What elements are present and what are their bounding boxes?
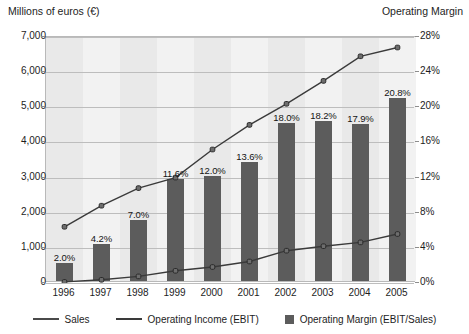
tick-mark [415,71,419,72]
tick-mark [41,247,45,248]
x-axis-tick-label: 1998 [119,287,156,298]
line-icon-operating-income [116,318,142,320]
y-axis-right-tick-label: 20% [420,100,440,111]
tick-mark [415,36,419,37]
bar-value-label: 2.0% [41,252,89,263]
chart-container: Millions of euros (€) Operating Margin 2… [0,0,469,334]
x-axis-tick-label: 1997 [82,287,119,298]
y-axis-right-tick-label: 12% [420,171,440,182]
bar-value-label: 17.9% [337,113,385,124]
legend-item-sales: Sales [33,314,90,325]
line-icon-sales [33,318,59,320]
legend-item-operating-margin: Operating Margin (EBIT/Sales) [285,314,437,325]
chart-legend: Sales Operating Income (EBIT) Operating … [0,309,469,329]
tick-mark [415,247,419,248]
right-axis-title: Operating Margin [382,5,463,17]
bar-value-label: 4.2% [78,233,126,244]
bar-value-label: 20.8% [374,87,422,98]
y-axis-right-tick-label: 8% [420,206,434,217]
tick-mark [41,212,45,213]
plot-area: 2.0%4.2%7.0%11.6%12.0%13.6%18.0%18.2%17.… [45,36,415,282]
y-axis-right-tick-label: 24% [420,65,440,76]
y-axis-right-tick-label: 16% [420,135,440,146]
x-axis-tick-label: 2005 [378,287,415,298]
tick-mark [41,141,45,142]
tick-mark [41,36,45,37]
y-axis-right-tick-label: 28% [420,30,440,41]
tick-mark [415,141,419,142]
bar-value-label: 13.6% [226,151,274,162]
left-axis-title: Millions of euros (€) [8,5,100,17]
x-axis-tick-label: 2002 [267,287,304,298]
tick-mark [415,177,419,178]
legend-item-operating-income: Operating Income (EBIT) [116,314,259,325]
tick-mark [41,106,45,107]
gridline [46,283,414,284]
x-axis-tick-label: 2000 [193,287,230,298]
tick-mark [41,282,45,283]
x-axis-tick-label: 2004 [341,287,378,298]
legend-label-operating-margin: Operating Margin (EBIT/Sales) [300,314,437,325]
tick-mark [415,282,419,283]
tick-mark [41,71,45,72]
legend-label-sales: Sales [65,314,90,325]
tick-mark [415,212,419,213]
tick-mark [41,177,45,178]
legend-label-operating-income: Operating Income (EBIT) [148,314,259,325]
x-axis-tick-label: 2003 [304,287,341,298]
x-axis-tick-label: 2001 [230,287,267,298]
y-axis-right-tick-label: 4% [420,241,434,252]
bar-value-label: 12.0% [189,165,237,176]
x-axis-tick-label: 1999 [156,287,193,298]
bar-value-label: 7.0% [115,209,163,220]
square-icon-operating-margin [285,315,294,324]
tick-mark [415,106,419,107]
x-axis-tick-label: 1996 [45,287,82,298]
y-axis-right-tick-label: 0% [420,276,434,287]
bar-data-labels: 2.0%4.2%7.0%11.6%12.0%13.6%18.0%18.2%17.… [46,37,414,281]
